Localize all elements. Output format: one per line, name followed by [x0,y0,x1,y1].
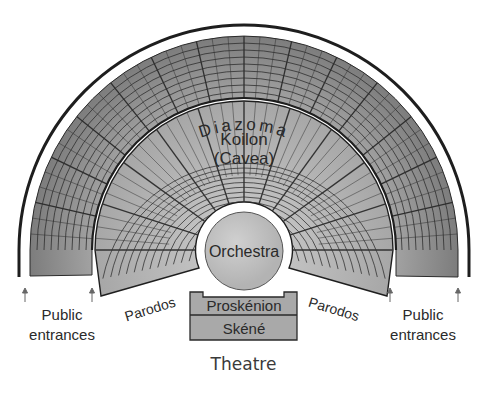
greek-theatre-diagram: Diazoma Koilon (Cavea) Orchestra Proskén… [0,0,487,399]
public-entrances-left-line2: entrances [29,326,95,343]
public-entrances-left-line1: Public [42,306,83,323]
koilon-label: Koilon [220,130,267,149]
arrow-up-icon [90,288,95,302]
figure-caption: Theatre [0,354,487,374]
skene-label: Skéné [223,320,266,337]
arrow-up-icon [456,288,461,302]
proskenion-label: Proskénion [206,297,281,314]
parodos-left-label: Parodos [123,294,178,325]
cavea-label: (Cavea) [214,149,274,168]
public-entrances-right-line1: Public [403,306,444,323]
public-entrances-right-line2: entrances [390,326,456,343]
orchestra-label: Orchestra [209,243,279,260]
arrow-up-icon [23,288,28,302]
parodos-right-label: Parodos [307,294,362,325]
